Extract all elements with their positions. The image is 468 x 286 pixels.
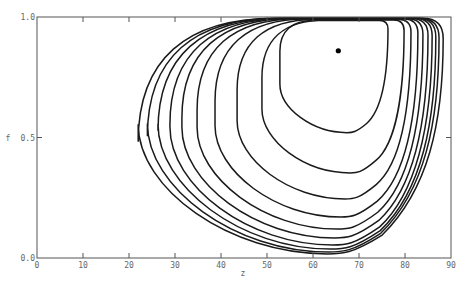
x-tick-label: 70 bbox=[354, 261, 364, 270]
x-tick-label: 20 bbox=[124, 261, 134, 270]
x-axis: 0102030405060708090 bbox=[35, 17, 456, 270]
contour-3 bbox=[158, 18, 436, 249]
x-tick-label: 90 bbox=[446, 261, 456, 270]
y-tick-label: 0.0 bbox=[21, 254, 36, 263]
x-tick-label: 30 bbox=[170, 261, 180, 270]
equilibrium-point bbox=[336, 48, 341, 53]
x-tick-label: 0 bbox=[35, 261, 40, 270]
contour-8 bbox=[237, 19, 411, 199]
contour-5 bbox=[182, 18, 428, 238]
x-tick-label: 80 bbox=[400, 261, 410, 270]
contour-group bbox=[138, 18, 443, 254]
contour-1 bbox=[138, 18, 443, 254]
x-tick-label: 50 bbox=[262, 261, 272, 270]
y-tick-label: 1.0 bbox=[21, 13, 36, 22]
x-axis-label: z bbox=[241, 269, 246, 278]
contour-10 bbox=[280, 21, 388, 133]
x-tick-label: 10 bbox=[78, 261, 88, 270]
phase-plot: 0102030405060708090 0.00.51.0 z f bbox=[0, 0, 468, 286]
y-axis-label: f bbox=[6, 134, 11, 143]
y-tick-label: 0.5 bbox=[21, 134, 36, 143]
contour-9 bbox=[262, 20, 404, 173]
x-tick-label: 60 bbox=[308, 261, 318, 270]
x-tick-label: 40 bbox=[216, 261, 226, 270]
